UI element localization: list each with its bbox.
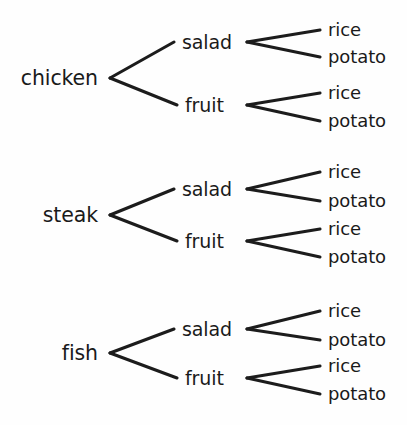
branch-fish-salad — [110, 329, 174, 353]
node-starch-fish-salad-potato: potato — [328, 331, 386, 349]
branch-steak-salad — [110, 189, 174, 215]
branch-salad-rice-2-0 — [247, 311, 320, 329]
node-main-chicken: chicken — [0, 68, 98, 89]
node-side-steak-fruit: fruit — [185, 232, 224, 251]
branch-fruit-potato-2-1 — [247, 378, 320, 394]
node-starch-steak-salad-rice: rice — [328, 163, 361, 181]
node-main-fish: fish — [0, 343, 98, 364]
node-main-steak: steak — [0, 205, 98, 226]
node-starch-chicken-salad-potato: potato — [328, 48, 386, 66]
branch-fruit-potato-1-1 — [247, 241, 320, 257]
node-side-chicken-fruit: fruit — [185, 96, 224, 115]
node-side-chicken-salad: salad — [182, 33, 232, 52]
node-starch-fish-salad-rice: rice — [328, 302, 361, 320]
branch-fruit-rice-1-0 — [247, 229, 320, 241]
branch-salad-potato-2-1 — [247, 329, 320, 340]
node-starch-chicken-salad-rice: rice — [328, 21, 361, 39]
node-side-steak-salad: salad — [182, 180, 232, 199]
branch-fruit-potato-0-1 — [247, 105, 320, 121]
branch-salad-rice-1-0 — [247, 172, 320, 189]
node-starch-steak-fruit-potato: potato — [328, 248, 386, 266]
branch-fish-fruit — [110, 353, 177, 378]
node-starch-steak-fruit-rice: rice — [328, 220, 361, 238]
node-starch-fish-fruit-rice: rice — [328, 357, 361, 375]
node-starch-fish-fruit-potato: potato — [328, 385, 386, 403]
node-side-fish-salad: salad — [182, 320, 232, 339]
node-side-fish-fruit: fruit — [185, 369, 224, 388]
branch-salad-rice-0-0 — [247, 30, 320, 42]
tree-diagram: chickensaladricepotatofruitricepotatoste… — [0, 0, 407, 425]
node-starch-chicken-fruit-rice: rice — [328, 84, 361, 102]
node-starch-chicken-fruit-potato: potato — [328, 112, 386, 130]
branch-fruit-rice-0-0 — [247, 93, 320, 105]
branch-salad-potato-0-1 — [247, 42, 320, 57]
node-starch-steak-salad-potato: potato — [328, 192, 386, 210]
branch-steak-fruit — [110, 215, 177, 241]
branch-chicken-fruit — [110, 78, 177, 105]
branch-salad-potato-1-1 — [247, 189, 320, 201]
branch-chicken-salad — [110, 42, 174, 78]
branch-fruit-rice-2-0 — [247, 366, 320, 378]
